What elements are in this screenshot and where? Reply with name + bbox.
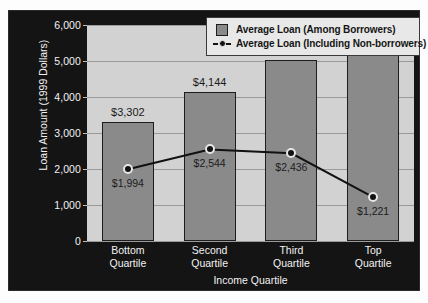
bar-value-label: $3,302 (111, 106, 145, 118)
legend-item-line: Average Loan (Including Non-borrowers) (213, 37, 413, 50)
legend-line-dot-icon (213, 39, 231, 49)
bar-value-label: $4,144 (193, 76, 227, 88)
legend-item-label: Average Loan (Including Non-borrowers) (236, 38, 426, 49)
chart-panel: 01,0002,0003,0004,0005,0006,000 Loan Amo… (8, 10, 420, 291)
line-value-label: $2,436 (275, 161, 307, 173)
y-axis-tick-label: 3,000 (54, 128, 81, 138)
y-axis-tick-label: 0 (75, 236, 81, 246)
x-axis-tick-labels: BottomQuartileSecondQuartileThirdQuartil… (87, 244, 414, 274)
gridline (87, 241, 414, 242)
y-axis-tick-label: 6,000 (54, 20, 81, 30)
y-axis-title: Loan Amount (1999 Dollars) (37, 25, 49, 185)
y-axis-tick-label: 1,000 (54, 200, 81, 210)
legend-item-label: Average Loan (Among Borrowers) (236, 24, 395, 35)
line-value-label: $1,221 (357, 205, 389, 217)
legend-square-swatch-icon (213, 24, 231, 36)
y-axis-tick-label: 4,000 (54, 92, 81, 102)
line-value-label: $2,544 (194, 157, 226, 169)
x-axis-tick-label: SecondQuartile (191, 244, 228, 270)
line-path (128, 149, 373, 197)
line-value-label: $1,994 (112, 177, 144, 189)
x-axis-tick-label: BottomQuartile (109, 244, 146, 270)
x-axis-title: Income Quartile (87, 274, 414, 286)
y-axis-tick-labels: 01,0002,0003,0004,0005,0006,000 (27, 25, 81, 241)
chart-container: 01,0002,0003,0004,0005,0006,000 Loan Amo… (0, 0, 428, 303)
legend-item-bar: Average Loan (Among Borrowers) (213, 23, 413, 36)
y-axis-tick-label: 5,000 (54, 56, 81, 66)
x-axis-tick-label: TopQuartile (355, 244, 392, 270)
x-axis-tick-label: ThirdQuartile (273, 244, 310, 270)
y-axis-tick-label: 2,000 (54, 164, 81, 174)
plot-area: $3,302$4,144$5,028$5,331 $1,994$2,544$2,… (87, 25, 414, 241)
chart-legend: Average Loan (Among Borrowers) Average L… (206, 17, 420, 56)
